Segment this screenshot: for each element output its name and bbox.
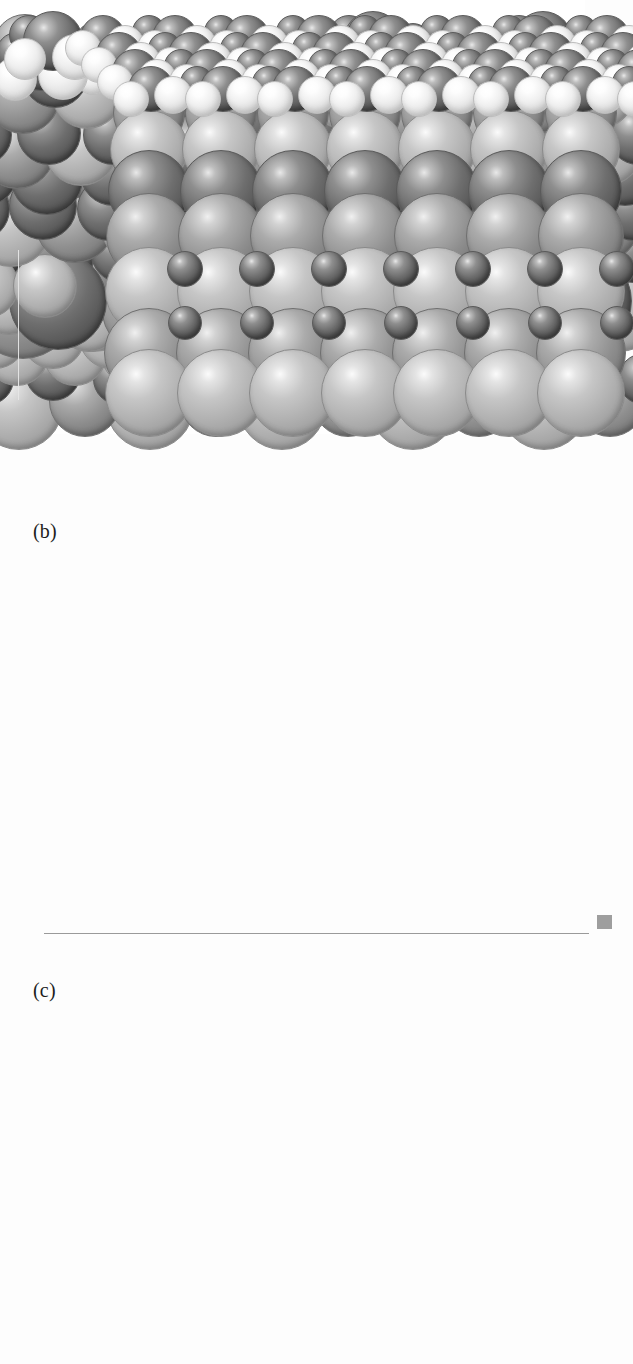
hydrogen-sphere	[329, 81, 365, 117]
interstitial-sphere-dark	[167, 251, 203, 287]
hydrogen-sphere	[545, 81, 581, 117]
unit-cell-edge	[18, 250, 19, 400]
interstitial-sphere-dark	[527, 251, 563, 287]
figure-canvas: (a) (b) (c)	[0, 0, 633, 1364]
interstitial-sphere-dark	[455, 251, 491, 287]
interstitial-sphere-dark	[311, 251, 347, 287]
interstitial-sphere-dark	[239, 251, 275, 287]
hydrogen-sphere	[257, 81, 293, 117]
interstitial-sphere-dark	[528, 306, 562, 340]
hydrogen-sphere	[473, 81, 509, 117]
panel-b-baseline	[44, 933, 589, 934]
panel-c-label: (c)	[33, 980, 56, 1000]
interstitial-sphere-dark	[312, 306, 346, 340]
interstitial-sphere-dark	[384, 306, 418, 340]
hydrogen-sphere	[401, 81, 437, 117]
interstitial-sphere-dark	[383, 251, 419, 287]
interstitial-sphere-dark	[240, 306, 274, 340]
hydrogen-sphere	[113, 81, 149, 117]
panel-b-corner-marker	[597, 915, 612, 929]
panel-b-label: (b)	[33, 521, 57, 541]
interstitial-sphere-dark	[168, 306, 202, 340]
hydrogen-sphere	[4, 38, 46, 80]
hydrogen-sphere	[185, 81, 221, 117]
interstitial-sphere-dark	[456, 306, 490, 340]
